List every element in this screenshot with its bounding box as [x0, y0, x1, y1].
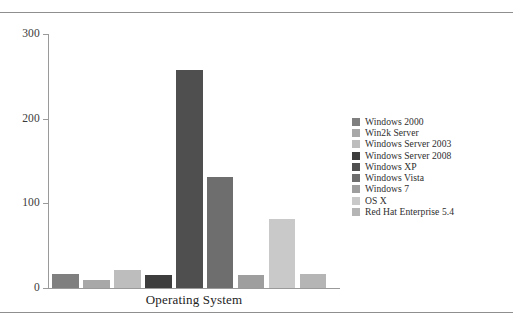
- bar-windows-2000: [52, 274, 79, 288]
- chart-legend: Windows 2000Win2k ServerWindows Server 2…: [352, 116, 510, 218]
- x-axis-title: Operating System: [48, 292, 340, 308]
- legend-item: Win2k Server: [352, 127, 510, 138]
- legend-swatch-icon: [352, 129, 360, 137]
- legend-item-label: Windows Server 2008: [365, 151, 451, 161]
- legend-item-label: Windows Server 2003: [365, 139, 451, 149]
- bar-windows-xp: [176, 70, 203, 288]
- legend-item-label: Red Hat Enterprise 5.4: [365, 207, 454, 217]
- bottom-horizontal-rule: [0, 312, 513, 313]
- plot-area: [48, 34, 328, 288]
- y-axis-tick-label: 300: [8, 28, 40, 40]
- legend-item-label: Windows XP: [365, 162, 417, 172]
- legend-item: Windows XP: [352, 161, 510, 172]
- legend-item: OS X: [352, 195, 510, 206]
- legend-swatch-icon: [352, 152, 360, 160]
- legend-item: Windows 7: [352, 184, 510, 195]
- legend-swatch-icon: [352, 174, 360, 182]
- legend-swatch-icon: [352, 185, 360, 193]
- bar-win2k-server: [83, 280, 110, 288]
- legend-item: Windows Vista: [352, 172, 510, 183]
- bar-windows-server-2003: [114, 270, 141, 288]
- legend-item: Windows 2000: [352, 116, 510, 127]
- legend-item-label: Windows 2000: [365, 117, 424, 127]
- legend-item: Windows Server 2008: [352, 150, 510, 161]
- legend-item-label: OS X: [365, 196, 387, 206]
- legend-item: Red Hat Enterprise 5.4: [352, 206, 510, 217]
- legend-swatch-icon: [352, 118, 360, 126]
- legend-swatch-icon: [352, 163, 360, 171]
- y-axis-tick-label: 0: [8, 282, 40, 294]
- bar-windows-7: [238, 275, 265, 288]
- y-axis-tick: [43, 288, 49, 289]
- legend-swatch-icon: [352, 140, 360, 148]
- y-axis-tick-label: 200: [8, 113, 40, 125]
- legend-item: Windows Server 2003: [352, 139, 510, 150]
- bar-chart-figure: 0100200300 Operating System Windows 2000…: [0, 13, 513, 312]
- legend-item-label: Windows Vista: [365, 173, 424, 183]
- bar-red-hat-enterprise-5-4: [300, 274, 327, 288]
- legend-swatch-icon: [352, 197, 360, 205]
- bar-windows-vista: [207, 177, 234, 288]
- legend-item-label: Win2k Server: [365, 128, 419, 138]
- legend-swatch-icon: [352, 208, 360, 216]
- bar-windows-server-2008: [145, 275, 172, 288]
- bar-os-x: [269, 219, 296, 288]
- x-axis-line: [48, 288, 340, 289]
- legend-item-label: Windows 7: [365, 184, 409, 194]
- y-axis-tick-label: 100: [8, 197, 40, 209]
